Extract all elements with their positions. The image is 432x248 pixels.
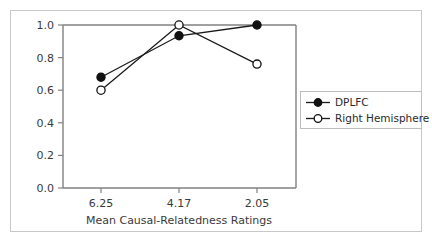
legend: DPLFC Right Hemisphere [301,92,430,129]
y-axis-ticks [58,25,63,188]
x-axis-tick-labels: 6.25 4.17 2.05 [89,197,270,210]
x-tick-label-2.05: 2.05 [245,197,270,210]
data-point-right-hemisphere-1 [175,21,183,29]
y-tick-label-1.0: 1.0 [37,19,55,32]
legend-marker-open-circle [314,115,322,123]
y-tick-label-0.6: 0.6 [37,84,55,97]
x-tick-label-6.25: 6.25 [89,197,114,210]
x-axis-ticks [101,188,257,193]
x-tick-label-4.17: 4.17 [167,197,192,210]
data-point-right-hemisphere-0 [97,86,105,94]
data-point-dplfc-1 [175,32,183,40]
y-tick-label-0.8: 0.8 [37,52,55,65]
y-tick-label-0.2: 0.2 [37,149,55,162]
legend-label-dplfc: DPLFC [335,96,369,108]
y-axis-tick-labels: 1.0 0.8 0.6 0.4 0.2 0.0 [37,19,55,195]
line-chart: 1.0 0.8 0.6 0.4 0.2 0.0 6.25 4.17 2.05 M… [0,0,432,248]
data-point-dplfc-2 [253,21,261,29]
data-point-right-hemisphere-2 [253,60,261,68]
legend-marker-filled-circle [314,99,322,107]
data-point-dplfc-0 [97,73,105,81]
y-tick-label-0.0: 0.0 [37,182,55,195]
plot-spines [63,25,296,188]
x-axis-title: Mean Causal-Relatedness Ratings [86,214,272,227]
legend-label-right-hemisphere: Right Hemisphere [335,112,429,124]
y-tick-label-0.4: 0.4 [37,117,55,130]
